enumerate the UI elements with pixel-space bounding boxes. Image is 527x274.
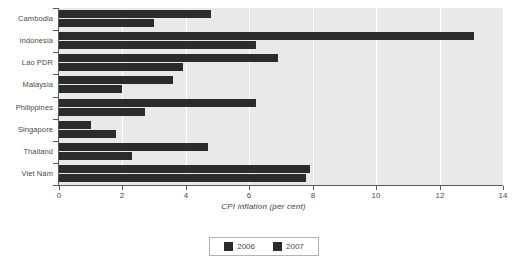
x-tick — [186, 186, 187, 190]
bar — [59, 76, 173, 84]
category-label-lao-pdr: Lao PDR — [1, 58, 53, 67]
x-tick-label-2: 2 — [120, 191, 124, 200]
y-axis-line — [58, 8, 59, 185]
bar — [59, 85, 122, 93]
legend-swatch-2006-icon — [224, 242, 233, 251]
bar — [59, 165, 310, 173]
category-axis-labels: CambodiaIndonesiaLao PDRMalaysiaPhilippi… — [0, 8, 53, 185]
bar — [59, 108, 145, 116]
y-tick — [53, 74, 58, 75]
bar-group — [59, 141, 503, 163]
x-tick — [249, 186, 250, 190]
legend-label-2007: 2007 — [286, 242, 304, 251]
bar-group — [59, 30, 503, 52]
bar — [59, 174, 306, 182]
bar — [59, 130, 116, 138]
plot-area — [59, 8, 503, 185]
y-tick — [53, 8, 58, 9]
bar-group — [59, 8, 503, 30]
x-tick-label-12: 12 — [436, 191, 445, 200]
bar — [59, 19, 154, 27]
bar-group — [59, 74, 503, 96]
chart-legend: 2006 2007 — [209, 237, 319, 256]
bar — [59, 10, 211, 18]
category-label-malaysia: Malaysia — [1, 80, 53, 89]
category-label-singapore: Singapore — [1, 125, 53, 134]
bar — [59, 41, 256, 49]
legend-swatch-2007-icon — [273, 242, 282, 251]
x-tick — [122, 186, 123, 190]
category-label-indonesia: Indonesia — [1, 36, 53, 45]
x-tick-label-10: 10 — [372, 191, 381, 200]
x-tick — [440, 186, 441, 190]
category-label-cambodia: Cambodia — [1, 14, 53, 23]
x-tick — [59, 186, 60, 190]
bar-group — [59, 52, 503, 74]
legend-entry-2007: 2007 — [273, 242, 304, 251]
bar — [59, 143, 208, 151]
bar — [59, 121, 91, 129]
y-tick — [53, 119, 58, 120]
gridline-14 — [503, 8, 504, 185]
category-label-thailand: Thailand — [1, 147, 53, 156]
x-axis-title: CPI inflation (per cent) — [0, 202, 527, 211]
category-label-viet-nam: Viet Nam — [1, 169, 53, 178]
y-tick — [53, 163, 58, 164]
bar — [59, 99, 256, 107]
cpi-inflation-bar-chart: CambodiaIndonesiaLao PDRMalaysiaPhilippi… — [0, 0, 527, 274]
legend-label-2006: 2006 — [237, 242, 255, 251]
x-tick-label-8: 8 — [311, 191, 315, 200]
y-tick — [53, 97, 58, 98]
bar — [59, 32, 474, 40]
category-label-philippines: Philippines — [1, 103, 53, 112]
y-tick — [53, 30, 58, 31]
y-tick — [53, 185, 58, 186]
bar-group — [59, 97, 503, 119]
x-tick — [503, 186, 504, 190]
x-tick-label-4: 4 — [184, 191, 188, 200]
x-tick — [313, 186, 314, 190]
bar-group — [59, 119, 503, 141]
bar — [59, 152, 132, 160]
x-tick-label-0: 0 — [57, 191, 61, 200]
x-axis-line — [58, 185, 503, 186]
x-tick — [376, 186, 377, 190]
y-tick — [53, 141, 58, 142]
x-tick-label-6: 6 — [247, 191, 251, 200]
legend-entry-2006: 2006 — [224, 242, 255, 251]
bar-group — [59, 163, 503, 185]
x-tick-label-14: 14 — [499, 191, 508, 200]
bar — [59, 63, 183, 71]
bar — [59, 54, 278, 62]
y-tick — [53, 52, 58, 53]
